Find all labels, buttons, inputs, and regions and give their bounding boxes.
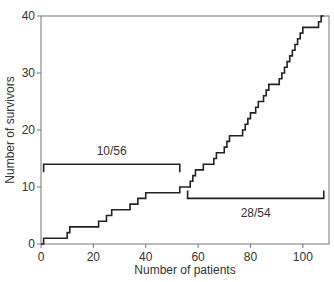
y-tick-label: 10: [22, 180, 36, 194]
survivor-step-line: [41, 16, 324, 244]
plot-frame: [41, 16, 329, 244]
y-tick-label: 20: [22, 123, 36, 137]
y-axis-label: Number of survivors: [3, 76, 17, 183]
bracket-first-group: [44, 164, 180, 172]
y-tick-label: 0: [28, 237, 35, 251]
y-tick-label: 30: [22, 66, 36, 80]
x-axis: 020406080100: [38, 244, 313, 264]
x-tick-label: 0: [38, 250, 45, 264]
x-tick-label: 40: [139, 250, 153, 264]
bracket-second-label: 28/54: [241, 206, 271, 220]
x-axis-label: Number of patients: [134, 263, 235, 277]
bracket-second-group: [188, 190, 324, 198]
chart-figure: 010203040 020406080100 Number of patient…: [0, 0, 334, 282]
x-tick-label: 60: [191, 250, 205, 264]
x-tick-label: 20: [87, 250, 101, 264]
y-tick-label: 40: [22, 9, 36, 23]
x-tick-label: 80: [244, 250, 258, 264]
x-tick-label: 100: [293, 250, 313, 264]
bracket-first-label: 10/56: [97, 144, 127, 158]
y-axis: 010203040: [22, 9, 41, 251]
